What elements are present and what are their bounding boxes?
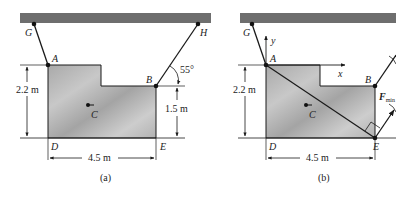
caption-b: (b) bbox=[318, 172, 330, 184]
label-b: B bbox=[365, 74, 371, 85]
ceiling-bar bbox=[20, 13, 200, 23]
cable-bh bbox=[156, 24, 198, 86]
angle-label: 55° bbox=[180, 64, 194, 75]
label-c: C bbox=[91, 109, 98, 120]
pin-h bbox=[196, 22, 201, 27]
label-g: G bbox=[25, 27, 32, 38]
label-a: A bbox=[269, 53, 277, 64]
label-h: H bbox=[199, 27, 208, 38]
panel-a: 2.2 m 1.5 m 4.5 m 55° G A B H C D E (a) bbox=[16, 13, 208, 184]
axis-label-y: y bbox=[270, 35, 276, 46]
pin-g bbox=[32, 22, 37, 27]
cable-bh bbox=[375, 55, 396, 86]
pin-b bbox=[373, 84, 378, 89]
label-c: C bbox=[309, 109, 316, 120]
label-d: D bbox=[268, 141, 277, 152]
label-e: E bbox=[159, 141, 166, 152]
panel-b: y x 2.2 m 4.5 m G A B C D E Fmin (b) bbox=[200, 13, 396, 184]
force-fmin-arrow bbox=[375, 110, 394, 138]
plate bbox=[48, 65, 156, 138]
caption-a: (a) bbox=[100, 172, 111, 184]
dim-label-4-5m: 4.5 m bbox=[306, 152, 329, 163]
ceiling-bar-end bbox=[200, 13, 211, 23]
cable-ga bbox=[252, 24, 266, 65]
cable-ga bbox=[34, 24, 48, 65]
diagram-canvas: 2.2 m 1.5 m 4.5 m 55° G A B H C D E (a) bbox=[0, 0, 396, 198]
angle-arc-e bbox=[389, 104, 396, 112]
label-g: G bbox=[243, 27, 250, 38]
label-a: A bbox=[51, 53, 59, 64]
pin-g bbox=[250, 22, 255, 27]
dim-label-4-5m: 4.5 m bbox=[88, 152, 111, 163]
force-label: Fmin bbox=[378, 91, 395, 103]
axis-label-x: x bbox=[337, 68, 343, 79]
dim-label-2-2m: 2.2 m bbox=[233, 84, 256, 95]
ceiling-bar bbox=[240, 13, 396, 23]
angle-arc bbox=[170, 66, 178, 84]
label-b: B bbox=[146, 74, 152, 85]
label-d: D bbox=[50, 141, 59, 152]
label-e: E bbox=[372, 141, 379, 152]
dim-label-2-2m: 2.2 m bbox=[16, 84, 39, 95]
dim-label-1-5m: 1.5 m bbox=[165, 103, 188, 114]
